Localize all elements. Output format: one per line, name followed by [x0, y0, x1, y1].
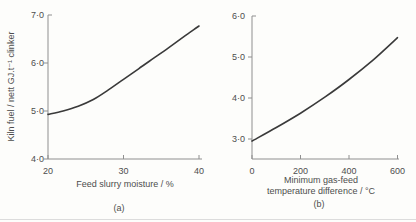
panel-b-caption: (b): [289, 199, 349, 210]
page-edge-rule: [0, 219, 416, 220]
panel-a-ytick-label: 4·0: [31, 154, 44, 164]
panel-a-ytick-label: 5·0: [31, 106, 44, 116]
panel-a-ylabel: Kiln fuel / nett GJ.t⁻¹ clinker: [6, 24, 17, 150]
panel-b-xlabel-line1: Minimum gas-feed: [241, 175, 401, 186]
panel-b-xlabel: Minimum gas-feed temperature difference …: [241, 175, 401, 197]
panel-b-ytick-label: 4·0: [232, 93, 245, 103]
panel-a-xtick-label: 30: [118, 166, 128, 176]
panel-b-ytick-label: 3·0: [232, 134, 245, 144]
panel-a-xlabel: Feed slurry moisture / %: [45, 179, 205, 190]
panel-a-curve: [48, 26, 199, 114]
figure-two-panel-chart: 4·05·06·07·0203040 3·04·05·06·0020040060…: [0, 0, 416, 222]
panel-a-axes: [48, 15, 202, 159]
panel-b-curve: [252, 38, 398, 141]
panel-a-xtick-label: 40: [194, 166, 204, 176]
panel-a-xtick-label: 20: [43, 166, 53, 176]
panel-b-xlabel-line2: temperature difference / °C: [241, 186, 401, 197]
panel-a-plot-svg: 4·05·06·07·0203040: [0, 0, 212, 180]
panel-b-ytick-label: 5·0: [232, 52, 245, 62]
panel-a-ytick-label: 6·0: [31, 58, 44, 68]
panel-b-ytick-label: 6·0: [232, 11, 245, 21]
panel-a-ytick-label: 7·0: [31, 10, 44, 20]
panel-b-axes: [252, 16, 399, 159]
panel-a-caption: (a): [89, 203, 149, 214]
panel-b-plot-svg: 3·04·05·06·00200400600: [212, 0, 416, 180]
